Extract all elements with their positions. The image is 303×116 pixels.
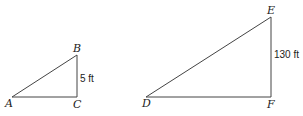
triangle-def	[146, 17, 271, 97]
side-bc-measure: 5 ft	[80, 73, 94, 84]
vertex-label-e: E	[266, 4, 275, 17]
vertex-label-b: B	[72, 42, 81, 55]
vertex-label-a: A	[4, 97, 13, 110]
vertex-label-f: F	[266, 98, 275, 111]
vertex-label-c: C	[73, 98, 82, 111]
similar-triangles-diagram: A B C 5 ft D E F 130 ft	[0, 0, 303, 116]
small-triangle: A B C 5 ft	[4, 42, 94, 111]
triangle-abc	[12, 55, 77, 97]
large-triangle: D E F 130 ft	[141, 4, 299, 111]
vertex-label-d: D	[141, 97, 151, 110]
side-ef-measure: 130 ft	[274, 49, 299, 60]
